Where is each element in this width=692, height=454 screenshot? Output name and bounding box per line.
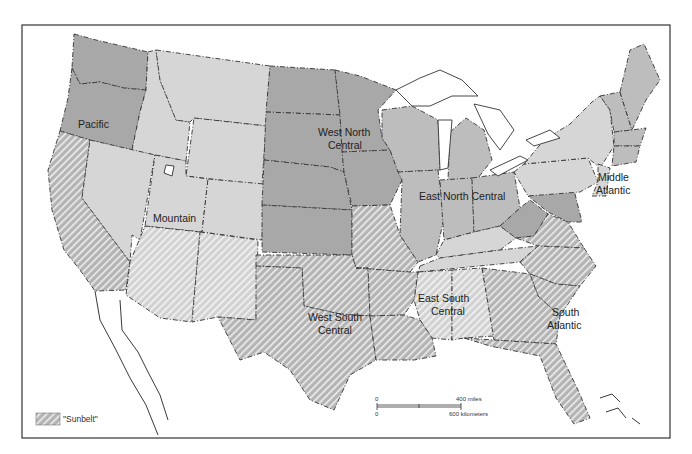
- state-colorado: [202, 179, 264, 240]
- state-wyoming: [186, 118, 266, 185]
- label-west-south-central-1: West South: [308, 311, 362, 323]
- state-indiana: [440, 178, 474, 240]
- state-kansas: [262, 205, 352, 255]
- legend: "Sunbelt": [36, 413, 98, 425]
- legend-sunbelt-swatch: [36, 413, 60, 425]
- state-new-mexico: [192, 232, 258, 322]
- label-east-north-central: East North Central: [419, 190, 505, 202]
- label-east-south-central-1: East South: [418, 292, 470, 304]
- label-west-south-central-2: Central: [318, 324, 352, 336]
- state-iowa: [342, 150, 402, 206]
- label-west-north-central-1: West North: [318, 126, 370, 138]
- label-middle-atlantic-2: Atlantic: [596, 184, 630, 196]
- label-east-south-central-2: Central: [431, 305, 465, 317]
- label-middle-atlantic-1: Middle: [598, 171, 629, 183]
- label-west-north-central-2: Central: [328, 139, 362, 151]
- label-mountain: Mountain: [153, 212, 196, 224]
- state-north-dakota: [266, 66, 340, 115]
- label-south-atlantic-2: Atlantic: [547, 319, 581, 331]
- scale-miles-label: 400 miles: [456, 396, 482, 402]
- label-south-atlantic-1: South: [552, 306, 580, 318]
- scale-km-label: 600 kilometers: [449, 411, 488, 417]
- label-pacific: Pacific: [78, 118, 109, 130]
- census-divisions-map: Pacific Mountain West North Central East…: [0, 0, 692, 454]
- legend-sunbelt-label: "Sunbelt": [63, 414, 98, 424]
